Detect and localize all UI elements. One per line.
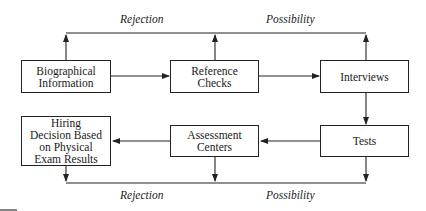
- node-interviews: Interviews: [320, 60, 409, 93]
- bottom-rejection-label: Rejection: [120, 189, 163, 201]
- node-tests: Tests: [320, 125, 409, 157]
- connector-lines: [0, 0, 426, 211]
- node-reference-checks: Reference Checks: [170, 60, 259, 93]
- node-biographical-information: Biographical Information: [21, 60, 111, 93]
- node-assessment-centers: Assessment Centers: [170, 125, 259, 157]
- bottom-possibility-label: Possibility: [266, 189, 315, 201]
- top-possibility-label: Possibility: [266, 13, 315, 25]
- top-rejection-label: Rejection: [120, 13, 163, 25]
- node-hiring-decision: Hiring Decision Based on Physical Exam R…: [21, 116, 111, 166]
